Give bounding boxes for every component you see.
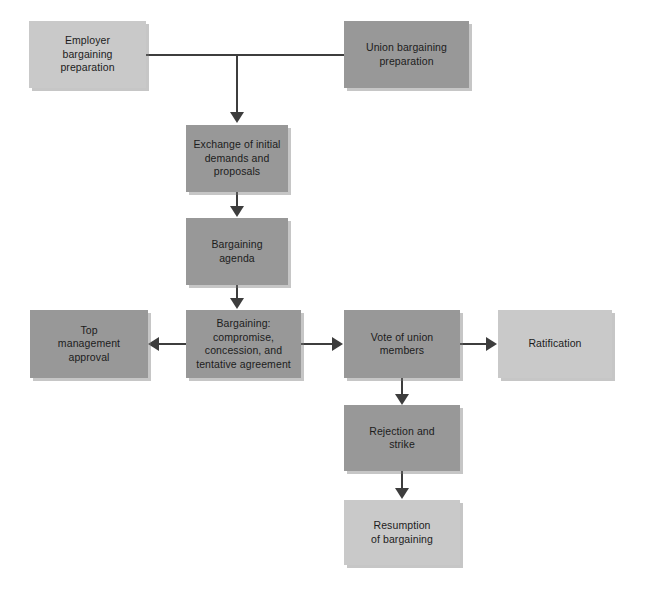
node-exchange-of-initial-demands-label: Exchange of initial demands and proposal… bbox=[190, 138, 284, 179]
arrowhead-to-ratification bbox=[486, 337, 497, 351]
connector-vote-to-ratification bbox=[460, 343, 487, 345]
arrowhead-to-bargaining bbox=[230, 298, 244, 309]
connector-preparation-to-exchange bbox=[236, 54, 238, 113]
connector-employer-to-union bbox=[146, 54, 344, 56]
node-top-management-approval-label: Top management approval bbox=[34, 324, 144, 365]
node-rejection-and-strike: Rejection and strike bbox=[344, 405, 460, 471]
node-employer-preparation: Employer bargaining preparation bbox=[29, 21, 146, 88]
node-union-preparation-label: Union bargaining preparation bbox=[348, 41, 465, 68]
node-bargaining-compromise: Bargaining: compromise, concession, and … bbox=[186, 310, 301, 378]
node-employer-preparation-label: Employer bargaining preparation bbox=[33, 34, 142, 75]
connector-vote-to-rejection bbox=[401, 378, 403, 395]
node-resumption-of-bargaining: Resumption of bargaining bbox=[344, 500, 460, 565]
node-exchange-of-initial-demands: Exchange of initial demands and proposal… bbox=[186, 125, 288, 192]
connector-exchange-to-agenda bbox=[236, 192, 238, 207]
node-union-preparation: Union bargaining preparation bbox=[344, 21, 469, 88]
node-vote-of-union-members: Vote of union members bbox=[344, 310, 460, 378]
connector-bargaining-to-top-management bbox=[159, 343, 186, 345]
arrowhead-to-exchange bbox=[230, 112, 244, 123]
node-bargaining-compromise-label: Bargaining: compromise, concession, and … bbox=[190, 317, 297, 371]
arrowhead-to-resumption bbox=[395, 488, 409, 499]
flowchart-canvas: Employer bargaining preparation Union ba… bbox=[0, 0, 649, 596]
node-rejection-and-strike-label: Rejection and strike bbox=[348, 425, 456, 452]
arrowhead-to-top-management bbox=[148, 337, 159, 351]
node-bargaining-agenda-label: Bargaining agenda bbox=[190, 238, 284, 265]
node-bargaining-agenda: Bargaining agenda bbox=[186, 218, 288, 285]
node-ratification: Ratification bbox=[498, 310, 612, 378]
arrowhead-to-agenda bbox=[230, 206, 244, 217]
node-resumption-of-bargaining-label: Resumption of bargaining bbox=[348, 519, 456, 546]
connector-agenda-to-bargaining bbox=[236, 285, 238, 299]
node-ratification-label: Ratification bbox=[502, 337, 608, 351]
arrowhead-to-vote bbox=[332, 337, 343, 351]
node-top-management-approval: Top management approval bbox=[30, 310, 148, 378]
node-vote-of-union-members-label: Vote of union members bbox=[348, 331, 456, 358]
connector-bargaining-to-vote bbox=[301, 343, 333, 345]
arrowhead-to-rejection bbox=[395, 394, 409, 405]
connector-rejection-to-resumption bbox=[401, 471, 403, 489]
